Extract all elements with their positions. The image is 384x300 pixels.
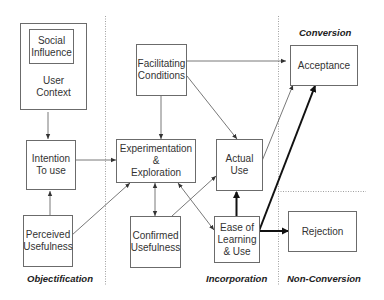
edge-experimentation-ease bbox=[178, 183, 214, 230]
edge-ease-acceptance bbox=[259, 86, 315, 231]
node-perceived-usefulness: Perceived Usefulness bbox=[23, 215, 73, 267]
node-facilitating-conditions: Facilitating Conditions bbox=[136, 44, 187, 96]
edge-actual-acceptance bbox=[262, 85, 293, 161]
phase-label-non-conversion: Non-Conversion bbox=[287, 273, 361, 284]
node-acceptance: Acceptance bbox=[290, 45, 358, 86]
node-confirmed-usefulness: Confirmed Usefulness bbox=[130, 216, 181, 268]
node-experimentation-exploration: Experimentation & Exploration bbox=[116, 139, 196, 183]
phase-label-objectification: Objectification bbox=[27, 273, 93, 284]
diagram-canvas: User Context Social Influence Intention … bbox=[0, 0, 384, 300]
phase-label-incorporation: Incorporation bbox=[206, 273, 267, 284]
node-social-influence: Social Influence bbox=[29, 29, 74, 64]
node-actual-use: Actual Use bbox=[216, 139, 263, 191]
node-ease-of-learning-use: Ease of Learning & Use bbox=[214, 216, 260, 263]
edge-facilitating-actual bbox=[187, 76, 237, 139]
node-rejection: Rejection bbox=[288, 211, 357, 252]
node-intention-to-use: Intention To use bbox=[26, 140, 76, 190]
edge-perceived-experimentation bbox=[72, 183, 130, 235]
phase-label-conversion: Conversion bbox=[299, 27, 351, 38]
node-user-context-label: User Context bbox=[36, 75, 70, 99]
